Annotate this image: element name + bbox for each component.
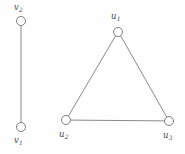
vertex-u1 <box>114 28 123 37</box>
graph-diagram-canvas: v2 v1 u1 u2 u3 <box>0 0 185 154</box>
edge-u1-u3 <box>121 36 167 117</box>
vertex-u2 <box>62 116 71 125</box>
vertex-label-u2-base: u <box>59 129 64 139</box>
vertex-label-u1-base: u <box>111 11 116 21</box>
vertex-label-v2-subscript: 2 <box>19 6 23 13</box>
vertex-label-u2-subscript: 2 <box>65 133 69 140</box>
vertex-label-v1: v1 <box>14 136 23 145</box>
vertex-v1 <box>17 123 26 132</box>
vertex-label-u3-subscript: 3 <box>169 134 173 141</box>
edge-component-group <box>17 17 26 132</box>
vertex-label-u1-subscript: 1 <box>117 15 121 22</box>
vertex-label-u3-base: u <box>163 130 168 140</box>
edge-u2-u3 <box>71 120 165 121</box>
graph-svg <box>0 0 185 154</box>
triangle-component-group <box>62 28 174 126</box>
vertex-label-v2: v2 <box>14 3 23 12</box>
vertex-label-u2: u2 <box>59 130 68 139</box>
vertex-u3 <box>165 117 174 126</box>
vertex-label-u1: u1 <box>111 12 120 21</box>
vertex-v2 <box>17 17 26 26</box>
vertex-label-v1-subscript: 1 <box>19 139 23 146</box>
edge-u1-u2 <box>68 36 115 116</box>
vertex-label-u3: u3 <box>163 131 172 140</box>
